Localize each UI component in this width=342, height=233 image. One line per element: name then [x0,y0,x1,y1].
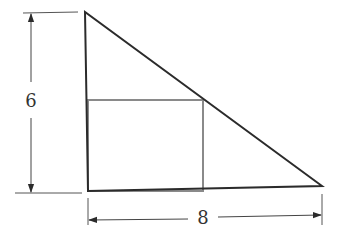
width-arrow-left [89,219,188,220]
width-label: 8 [197,207,208,228]
width-arrow-right [218,215,321,217]
height-extension-top [23,12,78,13]
diagram-canvas: 6 8 [0,0,342,233]
inscribed-rectangle [88,100,203,191]
height-label: 6 [25,90,36,111]
